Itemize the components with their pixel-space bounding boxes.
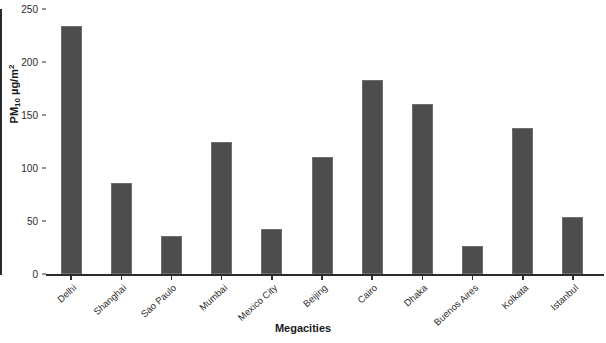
bar-slot (247, 9, 297, 274)
x-axis-tick-mark (70, 276, 72, 280)
x-axis-tick (397, 276, 447, 281)
x-axis-tick (297, 276, 347, 281)
y-axis-tick-label: 250 (21, 4, 42, 15)
x-axis-label: Dhaka (402, 282, 430, 309)
x-axis-tick-mark (171, 276, 173, 280)
x-axis-tick-mark (221, 276, 223, 280)
x-axis-tick (46, 276, 96, 281)
bar-slot (397, 9, 447, 274)
bar[interactable] (462, 246, 483, 274)
y-axis-title: PM10 µg/m2 (8, 34, 20, 154)
bar-slot (96, 9, 146, 274)
y-axis-tick: 150 (21, 110, 46, 121)
x-axis-tick (448, 276, 498, 281)
bar[interactable] (512, 128, 533, 274)
x-axis-tick (548, 276, 598, 281)
bar[interactable] (261, 229, 282, 274)
x-axis-label: Mumbai (197, 282, 229, 313)
x-axis-label: Delhi (55, 282, 78, 305)
x-axis-label: Beijing (301, 282, 330, 309)
x-axis-ticks (46, 276, 598, 281)
x-axis-tick-mark (422, 276, 424, 280)
y-axis-title-prefix: PM (8, 107, 20, 124)
plot-area: 250200150100500 (46, 9, 598, 274)
bar-slot (548, 9, 598, 274)
y-axis-title-subscript: 10 (13, 98, 22, 107)
bar-chart: PM10 µg/m2 250200150100500 DelhiShanghai… (0, 0, 606, 343)
x-axis-label: Shanghai (91, 282, 128, 317)
bar-slot (347, 9, 397, 274)
bar-series (46, 9, 598, 274)
x-axis-label: Cairo (355, 282, 379, 305)
y-axis-tick: 200 (21, 57, 46, 68)
bar[interactable] (362, 80, 383, 274)
y-axis-tick-label: 100 (21, 163, 42, 174)
x-axis-tick (347, 276, 397, 281)
y-axis-tick: 0 (32, 269, 46, 280)
x-axis-tick-mark (522, 276, 524, 280)
bar-slot (46, 9, 96, 274)
y-axis-tick-label: 50 (27, 216, 42, 227)
bar-slot (146, 9, 196, 274)
bar[interactable] (412, 104, 433, 274)
bar-slot (448, 9, 498, 274)
x-axis-tick (247, 276, 297, 281)
y-axis-title-superscript: 2 (7, 65, 16, 69)
y-axis-tick: 50 (27, 216, 46, 227)
x-axis-tick (146, 276, 196, 281)
x-axis-title: Megacities (0, 322, 606, 334)
bar-slot (197, 9, 247, 274)
bar-slot (297, 9, 347, 274)
x-axis-tick-mark (271, 276, 273, 280)
bar[interactable] (211, 142, 232, 275)
x-axis-label: Istanbul (548, 282, 580, 312)
x-axis-tick (498, 276, 548, 281)
x-axis-tick-mark (121, 276, 123, 280)
x-axis-tick-mark (371, 276, 373, 280)
bar[interactable] (312, 157, 333, 274)
x-axis-tick-mark (472, 276, 474, 280)
bar[interactable] (562, 217, 583, 274)
x-axis-tick (197, 276, 247, 281)
y-axis-tick-label: 200 (21, 57, 42, 68)
y-axis-line (0, 9, 2, 275)
y-axis-tick: 100 (21, 163, 46, 174)
bar[interactable] (161, 236, 182, 274)
x-axis-tick-mark (321, 276, 323, 280)
y-axis-tick-label: 0 (32, 269, 42, 280)
x-axis-tick-mark (572, 276, 574, 280)
bar[interactable] (111, 183, 132, 274)
bar[interactable] (61, 26, 82, 274)
x-axis-tick (96, 276, 146, 281)
y-axis-tick-label: 150 (21, 110, 42, 121)
x-axis-label: Kolkata (499, 282, 530, 311)
bar-slot (498, 9, 548, 274)
y-axis-title-unit: µg/m (8, 69, 20, 95)
y-axis-tick: 250 (21, 4, 46, 15)
